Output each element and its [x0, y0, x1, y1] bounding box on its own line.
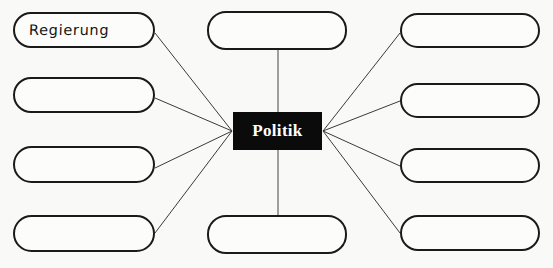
node-right-1[interactable]	[400, 13, 540, 48]
node-top[interactable]	[207, 11, 347, 50]
node-left-1[interactable]: Regierung	[13, 12, 155, 48]
mind-map-canvas: Regierung Politik	[0, 0, 553, 268]
edge-right-3-to-center	[323, 131, 400, 166]
node-label-left-1: Regierung	[29, 22, 110, 38]
edge-left-2-to-center	[155, 98, 232, 131]
center-node-label: Politik	[252, 121, 302, 141]
node-left-3[interactable]	[13, 146, 155, 183]
node-left-4[interactable]	[13, 215, 155, 252]
node-right-2[interactable]	[400, 83, 540, 118]
node-right-3[interactable]	[400, 148, 540, 183]
node-bottom[interactable]	[207, 215, 347, 254]
node-right-4[interactable]	[400, 215, 540, 251]
edge-left-3-to-center	[155, 131, 232, 168]
center-node-politik[interactable]: Politik	[233, 112, 322, 150]
node-left-2[interactable]	[13, 77, 155, 113]
